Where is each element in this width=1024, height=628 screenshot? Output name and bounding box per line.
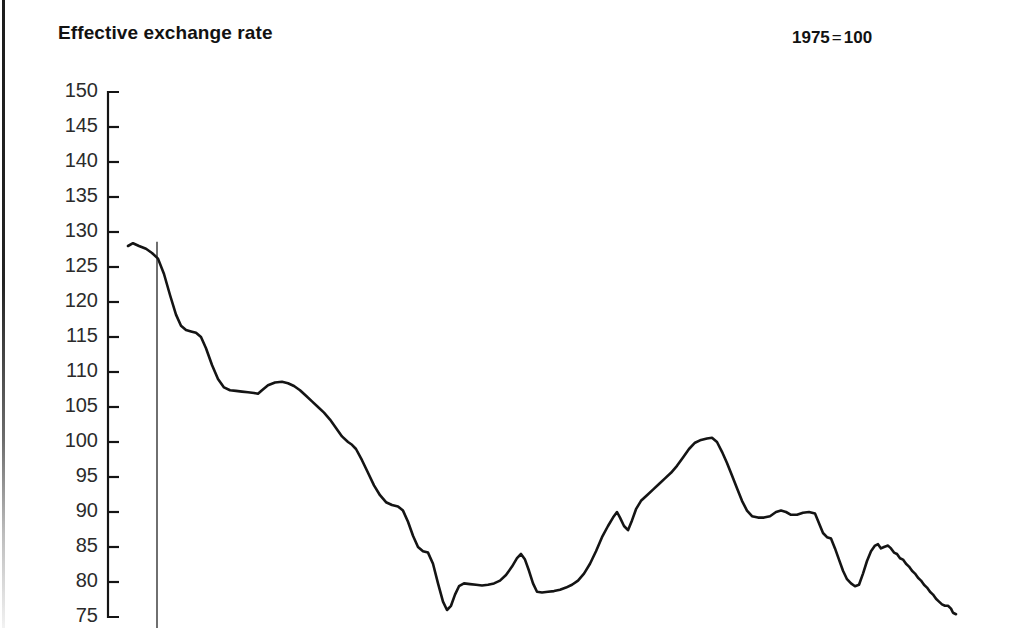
y-axis-tick-label: 75: [38, 604, 98, 627]
line-chart: [0, 0, 1024, 628]
y-axis-tick-label: 145: [38, 114, 98, 137]
y-axis-tick-label: 110: [38, 359, 98, 382]
y-axis-tick-label: 90: [38, 499, 98, 522]
y-axis-tick-label: 100: [38, 429, 98, 452]
y-axis-tick-label: 95: [38, 464, 98, 487]
y-axis: [108, 92, 119, 617]
y-axis-tick-label: 85: [38, 534, 98, 557]
series-line-effective-exchange-rate: [128, 243, 956, 614]
y-axis-tick-label: 150: [38, 79, 98, 102]
y-axis-tick-label: 135: [38, 184, 98, 207]
y-axis-tick-label: 130: [38, 219, 98, 242]
y-axis-tick-label: 115: [38, 324, 98, 347]
y-axis-spine: [108, 92, 119, 617]
y-axis-tick-label: 80: [38, 569, 98, 592]
y-axis-tick-label: 120: [38, 289, 98, 312]
y-axis-tick-label: 105: [38, 394, 98, 417]
y-axis-tick-label: 125: [38, 254, 98, 277]
y-axis-tick-label: 140: [38, 149, 98, 172]
